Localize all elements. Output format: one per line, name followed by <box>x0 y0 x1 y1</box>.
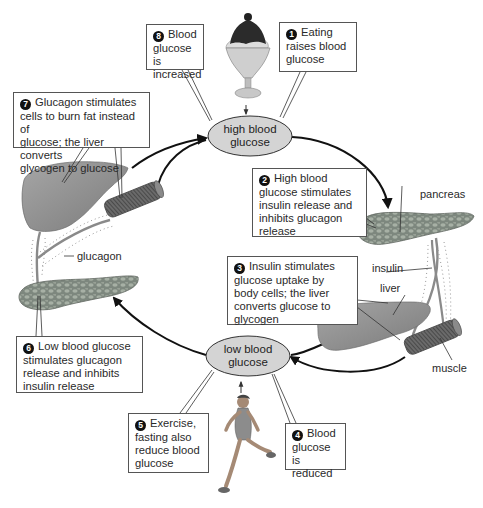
step-text: glucose uptake by <box>234 274 352 287</box>
arrow-muscle-to-low <box>291 357 405 372</box>
step-text: Eating <box>301 26 333 38</box>
high-glucose-label: high blood glucose <box>208 123 292 149</box>
step-number-badge: 5 <box>135 420 146 431</box>
step-1-box: 1Eating raises blood glucose <box>279 22 357 72</box>
left-organs <box>19 162 166 310</box>
step-number-badge: 1 <box>286 29 297 40</box>
step-text: reduced <box>292 467 340 480</box>
step-8-box: 8Blood glucose is increased <box>146 24 204 70</box>
low-glucose-label: low blood glucose <box>206 343 290 369</box>
high-glucose-line1: high blood <box>208 123 292 136</box>
step-text: Exercise, <box>150 417 196 429</box>
step-text: glycogen <box>234 313 352 326</box>
pancreas-label: pancreas <box>420 188 465 200</box>
low-glucose-line2: glucose <box>206 356 290 369</box>
step-text: Blood <box>168 28 197 40</box>
step-7-box: 7Glucagon stimulates cells to burn fat i… <box>13 92 150 148</box>
step-4-box: 4Blood glucose is reduced <box>285 423 346 470</box>
ice-cream-sundae-icon <box>226 13 270 98</box>
arrow-liver-to-low <box>291 344 323 355</box>
step-text: glucose; the liver converts <box>20 136 144 162</box>
step-number-badge: 4 <box>292 430 303 441</box>
step-5-box: 5Exercise, fasting also reduce blood glu… <box>128 413 209 473</box>
liver-label: liver <box>380 282 400 294</box>
step-text: insulin release and <box>259 199 361 212</box>
step-text: insulin release <box>23 380 137 393</box>
step-text: High blood <box>274 172 328 184</box>
pancreas-icon <box>358 212 474 244</box>
step-text: raises blood <box>286 40 351 53</box>
glucagon-label: glucagon <box>77 250 122 262</box>
step-text: Insulin stimulates <box>249 260 335 272</box>
step-text: Blood <box>307 427 336 439</box>
step-text: Low blood glucose <box>38 340 131 352</box>
step-number-badge: 3 <box>234 263 245 274</box>
step-3-box: 3Insulin stimulates glucose uptake by bo… <box>227 256 358 325</box>
step-text: body cells; the liver <box>234 287 352 300</box>
step-text: release <box>259 225 361 238</box>
step-text: cells to burn fat instead of <box>20 110 144 136</box>
step-text: fasting also <box>135 431 203 444</box>
step-text: glucose is <box>292 441 340 467</box>
step-text: glucose <box>286 53 351 66</box>
step-text: increased <box>153 68 198 81</box>
step-text: converts glucose to <box>234 300 352 313</box>
step-text: glucose is <box>153 42 198 68</box>
step-number-badge: 7 <box>20 99 31 110</box>
step-text: release and inhibits <box>23 367 137 380</box>
step-6-box: 6Low blood glucose stimulates glucagon r… <box>16 336 143 393</box>
step-text: glucose <box>135 457 203 470</box>
low-glucose-line1: low blood <box>206 343 290 356</box>
step-text: glucose stimulates <box>259 186 361 199</box>
muscle-label: muscle <box>432 362 467 374</box>
high-glucose-line2: glucose <box>208 136 292 149</box>
step-number-badge: 8 <box>153 31 164 42</box>
runner-icon <box>218 395 276 493</box>
step-text: glycogen to glucose <box>20 162 144 175</box>
step-number-badge: 2 <box>259 175 270 186</box>
step-text: inhibits glucagon <box>259 212 361 225</box>
step-text: reduce blood <box>135 444 203 457</box>
insulin-label: insulin <box>372 262 403 274</box>
step-text: stimulates glucagon <box>23 354 137 367</box>
glucose-cycle-diagram <box>0 0 483 508</box>
arrow-muscle-to-high <box>158 140 206 185</box>
step-number-badge: 6 <box>23 343 34 354</box>
step-2-box: 2High blood glucose stimulates insulin r… <box>252 168 367 237</box>
step-text: Glucagon stimulates <box>35 96 136 108</box>
